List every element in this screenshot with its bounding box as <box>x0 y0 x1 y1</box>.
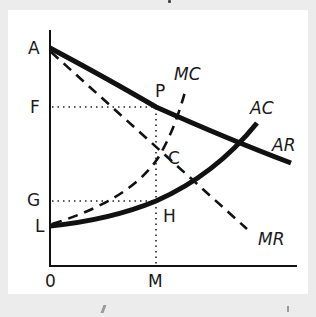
label-F: F <box>30 99 40 116</box>
label-G: G <box>27 192 40 209</box>
label-MR: MR <box>258 231 284 248</box>
label-origin: 0 <box>45 273 56 290</box>
label-L: L <box>35 218 44 235</box>
label-MC: MC <box>174 66 201 83</box>
label-C: C <box>168 150 180 167</box>
label-AC: AC <box>250 100 274 117</box>
label-A: A <box>28 40 40 57</box>
label-P: P <box>155 83 165 100</box>
label-H: H <box>163 208 176 225</box>
label-AR: AR <box>272 137 295 154</box>
monopoly-cost-revenue-diagram <box>0 0 316 317</box>
label-M: M <box>148 273 163 290</box>
